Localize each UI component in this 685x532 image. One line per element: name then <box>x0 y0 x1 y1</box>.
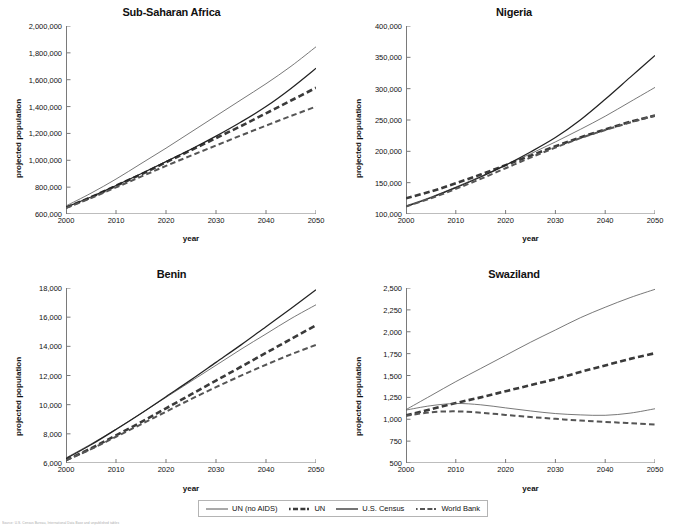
x-tick-label: 2020 <box>497 465 514 474</box>
plot-area <box>66 288 316 463</box>
y-tick-label: 14,000 <box>39 342 62 351</box>
series-line <box>406 289 655 409</box>
x-axis-label: year <box>66 234 316 243</box>
x-tick-labels: 200020102020203020402050 <box>66 216 316 228</box>
x-tick-label: 2050 <box>308 465 325 474</box>
y-tick-label: 1,200,000 <box>29 129 62 138</box>
y-tick-label: 12,000 <box>39 371 62 380</box>
panel-nigeria: Nigeria projected population 100,000150,… <box>343 0 685 266</box>
panel-title: Benin <box>0 268 343 280</box>
x-tick-label: 2040 <box>258 216 275 225</box>
y-tick-label: 1,600,000 <box>29 75 62 84</box>
legend-line-swatch-icon <box>288 505 310 513</box>
panel-title: Sub-Saharan Africa <box>0 6 343 18</box>
panel-title: Swaziland <box>343 268 685 280</box>
y-tick-label: 16,000 <box>39 313 62 322</box>
x-axis-label: year <box>406 484 655 493</box>
x-tick-label: 2010 <box>108 216 125 225</box>
y-tick-label: 2,000,000 <box>29 22 62 31</box>
plot-area <box>66 26 316 214</box>
panel-title: Nigeria <box>343 6 685 18</box>
y-tick-label: 300,000 <box>375 84 402 93</box>
legend-label: U.S. Census <box>362 504 404 513</box>
x-tick-label: 2050 <box>647 216 664 225</box>
y-tick-label: 1,250 <box>383 393 402 402</box>
x-tick-label: 2040 <box>258 465 275 474</box>
y-tick-label: 1,400,000 <box>29 102 62 111</box>
y-tick-label: 1,000 <box>383 415 402 424</box>
x-axis-label: year <box>66 484 316 493</box>
y-tick-label: 250,000 <box>375 116 402 125</box>
x-tick-label: 2030 <box>208 465 225 474</box>
x-tick-label: 2000 <box>58 216 75 225</box>
y-tick-label: 10,000 <box>39 400 62 409</box>
legend-line-swatch-icon <box>206 505 228 513</box>
x-tick-labels: 200020102020203020402050 <box>66 465 316 477</box>
legend-item: U.S. Census <box>336 504 404 513</box>
y-tick-label: 1,800,000 <box>29 48 62 57</box>
panel-sub-saharan-africa: Sub-Saharan Africa projected population … <box>0 0 343 266</box>
legend-item: World Bank <box>415 504 480 513</box>
y-tick-label: 18,000 <box>39 284 62 293</box>
x-tick-label: 2000 <box>398 216 415 225</box>
series-line <box>66 325 316 460</box>
panel-benin: Benin projected population 6,0008,00010,… <box>0 266 343 498</box>
y-tick-label: 350,000 <box>375 53 402 62</box>
plot-area <box>406 26 655 214</box>
x-tick-label: 2040 <box>597 216 614 225</box>
axis-spine <box>407 288 656 463</box>
plot-area <box>406 288 655 463</box>
x-tick-label: 2020 <box>158 216 175 225</box>
y-tick-labels: 6,0008,00010,00012,00014,00016,00018,000 <box>4 288 62 463</box>
legend-label: World Bank <box>441 504 480 513</box>
x-tick-label: 2050 <box>308 216 325 225</box>
x-tick-label: 2010 <box>447 216 464 225</box>
series-line <box>66 290 316 459</box>
series-line <box>66 88 316 208</box>
y-tick-labels: 100,000150,000200,000250,000300,000350,0… <box>344 26 402 214</box>
x-tick-label: 2000 <box>58 465 75 474</box>
y-tick-label: 2,500 <box>383 284 402 293</box>
y-tick-label: 2,250 <box>383 305 402 314</box>
y-tick-label: 800,000 <box>35 183 62 192</box>
x-tick-label: 2040 <box>597 465 614 474</box>
x-tick-label: 2020 <box>497 216 514 225</box>
x-tick-label: 2050 <box>647 465 664 474</box>
legend-line-swatch-icon <box>415 505 437 513</box>
x-tick-label: 2030 <box>547 465 564 474</box>
series-line <box>406 55 655 206</box>
chart-legend: UN (no AIDS)UNU.S. CensusWorld Bank <box>198 500 488 517</box>
x-tick-labels: 200020102020203020402050 <box>406 465 655 477</box>
y-tick-label: 150,000 <box>375 178 402 187</box>
axis-spine <box>407 26 656 214</box>
legend-item: UN <box>288 504 325 513</box>
y-tick-label: 400,000 <box>375 22 402 31</box>
legend-line-swatch-icon <box>336 505 358 513</box>
legend-label: UN <box>314 504 325 513</box>
series-line <box>406 411 655 424</box>
y-tick-label: 750 <box>389 437 402 446</box>
x-tick-label: 2030 <box>208 216 225 225</box>
series-line <box>406 353 655 415</box>
x-tick-label: 2000 <box>398 465 415 474</box>
y-tick-labels: 600,000800,0001,000,0001,200,0001,400,00… <box>4 26 62 214</box>
series-line <box>406 116 655 207</box>
series-line <box>66 47 316 206</box>
x-axis-label: year <box>406 234 655 243</box>
y-tick-label: 2,000 <box>383 327 402 336</box>
y-tick-label: 1,500 <box>383 371 402 380</box>
x-tick-label: 2020 <box>158 465 175 474</box>
y-tick-labels: 5007501,0001,2501,5001,7502,0002,2502,50… <box>344 288 402 463</box>
panel-swaziland: Swaziland projected population 5007501,0… <box>343 266 685 498</box>
y-tick-label: 8,000 <box>43 429 62 438</box>
x-tick-label: 2010 <box>108 465 125 474</box>
x-tick-labels: 200020102020203020402050 <box>406 216 655 228</box>
y-tick-label: 1,750 <box>383 349 402 358</box>
y-tick-label: 200,000 <box>375 147 402 156</box>
legend-label: UN (no AIDS) <box>232 504 277 513</box>
legend-item: UN (no AIDS) <box>206 504 277 513</box>
x-tick-label: 2010 <box>447 465 464 474</box>
source-footnote: Source: U.S. Census Bureau, Internationa… <box>2 521 119 525</box>
chart-grid: Sub-Saharan Africa projected population … <box>0 0 685 498</box>
x-tick-label: 2030 <box>547 216 564 225</box>
